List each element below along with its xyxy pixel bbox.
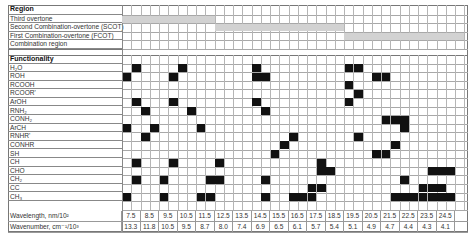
absorption-cell [215,159,224,167]
absorption-cell [169,159,178,167]
absorption-cell [428,167,437,175]
absorption-cell [178,64,187,72]
wavelength-tick: 17.5 [307,211,326,222]
wavenumber-tick: 4.3 [418,222,437,233]
grid-line-v [233,55,234,210]
absorption-cell [261,176,270,184]
functional-group-label: CH [8,158,122,167]
grid-line-v [298,55,299,210]
grid-line-v [446,5,447,49]
functional-group-label: CH₂ [8,175,122,184]
absorption-cell [252,73,261,81]
grid-line-v [400,5,401,49]
absorption-cell [372,150,381,158]
absorption-cell [446,167,455,175]
grid-line-v [464,55,465,210]
grid-line-v [187,55,188,210]
region-label: Combination region [8,40,122,49]
functional-group-label: CH₃ [8,193,122,202]
absorption-cell [169,73,178,81]
nir-band-assignment-chart: RegionThird overtoneSecond Combination-o… [8,5,470,237]
absorption-cell [308,193,317,201]
absorption-cell [345,64,354,72]
grid-line-v [131,5,132,49]
grid-line-h [122,49,468,50]
wavenumber-tick: 6.9 [252,222,271,233]
grid-line-v [446,55,447,210]
grid-line-h [122,175,468,176]
wavenumber-label: Wavenumber, cm⁻¹/10³ [8,222,122,233]
region-label: Third overtone [8,15,122,24]
grid-line-v [159,55,160,210]
absorption-cell [419,193,428,201]
absorption-cell [141,107,150,115]
functional-group-label: RCOOH [8,81,122,90]
wavenumber-tick: 4.9 [363,222,382,233]
wavenumber-tick: 4.4 [400,222,419,233]
absorption-cell [123,73,132,81]
absorption-cell [141,133,150,141]
functional-group-label: H₂O [8,64,122,73]
absorption-cell [345,98,354,106]
grid-line-h [122,184,468,185]
absorption-cell [437,193,446,201]
absorption-cell [206,176,215,184]
region-label: First Combination-overtone (FCOT) [8,32,122,41]
functional-group-label: RNHR' [8,132,122,141]
wavelength-tick: 14.5 [252,211,271,222]
grid-line-v [131,55,132,210]
wavenumber-tick: 6.5 [270,222,289,233]
wavenumber-tick: 5.4 [326,222,345,233]
wavenumber-tick: 8.7 [196,222,215,233]
absorption-cell [308,184,317,192]
wavenumber-tick: 6.1 [289,222,308,233]
grid-line-v [400,55,401,210]
grid-line-v [196,5,197,49]
absorption-cell [206,193,215,201]
grid-line-v [168,5,169,49]
absorption-cell [197,124,206,132]
grid-line-v [344,55,345,210]
grid-line-v [196,55,197,210]
absorption-cell [132,98,141,106]
wavelength-tick: 9.5 [159,211,178,222]
absorption-cell [382,150,391,158]
wavelength-tick: 20.5 [363,211,382,222]
functional-group-label: ROH [8,72,122,81]
grid-line-v [150,55,151,210]
grid-line-v [141,5,142,49]
absorption-cell [326,167,335,175]
wavelength-tick: 10.5 [178,211,197,222]
grid-line-v [409,55,410,210]
functional-group-label: CC [8,184,122,193]
absorption-cell [271,150,280,158]
wavenumber-tick: 11.8 [141,222,160,233]
wavenumber-tick: 5.1 [344,222,363,233]
absorption-cell [197,193,206,201]
grid-line-h [122,81,468,82]
absorption-cell [252,98,261,106]
absorption-cell [160,193,169,201]
grid-line-v [150,5,151,49]
absorption-cell [391,193,400,201]
absorption-cell [123,193,132,201]
absorption-cell [169,98,178,106]
wavenumber-tick: 10.5 [159,222,178,233]
wavelength-tick: 11.5 [196,211,215,222]
absorption-cell [419,184,428,192]
wavelength-tick: 21.5 [381,211,400,222]
wavelength-tick: 18.5 [326,211,345,222]
grid-line-v [455,55,456,210]
functional-group-label: CHO [8,167,122,176]
wavelength-tick: 24.5 [437,211,456,222]
grid-line-v [427,5,428,49]
grid-line-v [178,55,179,210]
grid-line-v [363,5,364,49]
grid-line-v [215,55,216,210]
absorption-cell [400,116,409,124]
grid-line-v [409,5,410,49]
absorption-cell [382,116,391,124]
absorption-cell [317,167,326,175]
wavenumber-tick: 4.7 [381,222,400,233]
region-label: Second Combination-overtone (SCOT) [8,23,122,32]
